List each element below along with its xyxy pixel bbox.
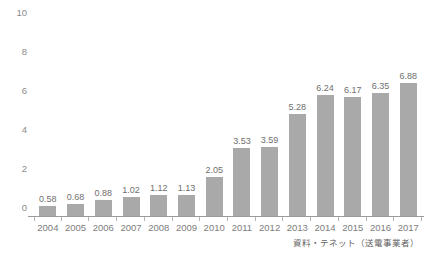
bar: 3.59 xyxy=(261,147,278,217)
bar: 0.68 xyxy=(67,204,84,217)
bar-column: 3.59 xyxy=(256,22,284,217)
x-axis-tick xyxy=(199,217,200,221)
bar-column: 6.24 xyxy=(311,22,339,217)
y-axis-tick-label: 4 xyxy=(22,125,27,135)
bar-value-label: 6.17 xyxy=(344,86,362,95)
bar-column: 1.02 xyxy=(117,22,145,217)
bar-column: 5.28 xyxy=(283,22,311,217)
x-axis-line xyxy=(28,216,424,217)
y-axis-tick-label: 2 xyxy=(22,164,27,174)
x-axis-labels: 2004200520062007200820092010201120122013… xyxy=(34,222,422,233)
bar: 1.12 xyxy=(150,195,167,217)
bar-value-label: 6.88 xyxy=(399,72,417,81)
bar: 1.02 xyxy=(123,197,140,217)
y-axis-tick-label: 8 xyxy=(22,47,27,57)
bar-column: 2.05 xyxy=(200,22,228,217)
x-axis-category-label: 2006 xyxy=(89,222,117,233)
x-axis-category-label: 2016 xyxy=(367,222,395,233)
x-axis-tick xyxy=(34,217,35,221)
x-axis-category-label: 2017 xyxy=(394,222,422,233)
x-axis-tick xyxy=(310,217,311,221)
bar-column: 1.12 xyxy=(145,22,173,217)
bar-column: 0.58 xyxy=(34,22,62,217)
x-axis-tick xyxy=(116,217,117,221)
y-axis-tick-label: 10 xyxy=(16,8,27,18)
bar-series: 0.580.680.881.021.121.132.053.533.595.28… xyxy=(34,22,422,217)
x-axis-category-label: 2012 xyxy=(256,222,284,233)
bar-value-label: 3.59 xyxy=(261,136,279,145)
x-axis-category-label: 2013 xyxy=(283,222,311,233)
bar: 6.24 xyxy=(317,95,334,217)
bar: 6.17 xyxy=(344,97,361,217)
x-axis-tick xyxy=(338,217,339,221)
bar-column: 6.88 xyxy=(394,22,422,217)
x-axis-category-label: 2004 xyxy=(34,222,62,233)
bar-value-label: 2.05 xyxy=(205,166,223,175)
bar-value-label: 1.02 xyxy=(122,186,140,195)
bar-value-label: 6.35 xyxy=(372,82,390,91)
bar: 3.53 xyxy=(233,148,250,217)
bar-column: 6.35 xyxy=(367,22,395,217)
x-axis-tick xyxy=(255,217,256,221)
bar-value-label: 5.28 xyxy=(289,103,307,112)
x-axis-category-label: 2014 xyxy=(311,222,339,233)
bar: 0.88 xyxy=(95,200,112,217)
x-axis-category-label: 2009 xyxy=(173,222,201,233)
bar-column: 1.13 xyxy=(173,22,201,217)
x-axis-tick xyxy=(282,217,283,221)
bar-value-label: 0.68 xyxy=(67,193,85,202)
bar-chart: 0246810 0.580.680.881.021.121.132.053.53… xyxy=(0,0,427,257)
bar: 5.28 xyxy=(289,114,306,217)
bar: 1.13 xyxy=(178,195,195,217)
chart-title xyxy=(4,0,304,5)
bar: 6.88 xyxy=(400,83,417,217)
y-axis-tick-label: 6 xyxy=(22,86,27,96)
x-axis-tick xyxy=(393,217,394,221)
x-axis-tick xyxy=(61,217,62,221)
source-note: 資料・テネット（送電事業者） xyxy=(293,238,419,249)
bar-value-label: 1.12 xyxy=(150,184,168,193)
x-axis-category-label: 2010 xyxy=(200,222,228,233)
x-axis-tick xyxy=(172,217,173,221)
bar-column: 0.68 xyxy=(62,22,90,217)
x-axis-category-label: 2007 xyxy=(117,222,145,233)
y-axis-tick-label: 0 xyxy=(22,203,27,213)
x-axis-category-label: 2011 xyxy=(228,222,256,233)
x-axis-category-label: 2008 xyxy=(145,222,173,233)
bar-value-label: 3.53 xyxy=(233,137,251,146)
bar-column: 3.53 xyxy=(228,22,256,217)
bar: 2.05 xyxy=(206,177,223,217)
plot-area: 0246810 0.580.680.881.021.121.132.053.53… xyxy=(34,22,422,217)
bar-value-label: 1.13 xyxy=(178,184,196,193)
x-axis-category-label: 2005 xyxy=(62,222,90,233)
bar: 6.35 xyxy=(372,93,389,217)
x-axis-tick xyxy=(88,217,89,221)
bar-value-label: 0.58 xyxy=(39,195,57,204)
bar-column: 6.17 xyxy=(339,22,367,217)
bar-value-label: 0.88 xyxy=(95,189,113,198)
bar-value-label: 6.24 xyxy=(316,84,334,93)
x-axis-category-label: 2015 xyxy=(339,222,367,233)
x-axis-tick xyxy=(144,217,145,221)
x-axis-tick xyxy=(421,217,422,221)
bar-column: 0.88 xyxy=(89,22,117,217)
x-axis-tick xyxy=(227,217,228,221)
x-axis-tick xyxy=(366,217,367,221)
